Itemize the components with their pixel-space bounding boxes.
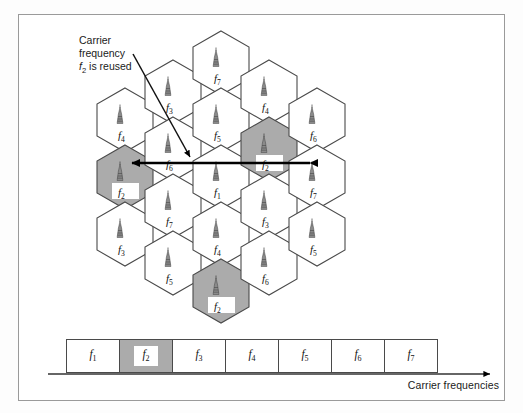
frequency-bar-label: f2	[134, 346, 157, 365]
frequency-bar-cell-f5[interactable]: f5	[279, 339, 332, 373]
frequency-bar-cell-f7[interactable]: f7	[385, 339, 438, 373]
axis-label-carrier-frequencies: Carrier frequencies	[408, 379, 499, 391]
frequency-bar-label: f7	[407, 348, 414, 363]
frequency-bar-label: f6	[354, 348, 361, 363]
carrier-frequency-bar: f1f2f3f4f5f6f7	[66, 339, 438, 373]
hex-label-backdrop	[112, 183, 139, 199]
frequency-bar-label: f5	[301, 348, 308, 363]
frequency-bar-label: f4	[248, 348, 255, 363]
hex-label-backdrop	[208, 297, 235, 313]
frequency-bar-cell-f2[interactable]: f2	[120, 339, 173, 373]
frequency-bar-cell-f1[interactable]: f1	[66, 339, 120, 373]
frequency-bar-cell-f4[interactable]: f4	[226, 339, 279, 373]
frequency-bar-label: f1	[89, 348, 96, 363]
annotation-line-2: frequency	[79, 47, 125, 59]
reuse-annotation-text: Carrier frequency f2 is reused	[79, 34, 199, 78]
frequency-bar-cell-f3[interactable]: f3	[173, 339, 226, 373]
frequency-bar-label: f3	[195, 348, 202, 363]
figure-root: f4f2f3f3f6f7f5f7f5f1f4f2f4f2f3f6f6f7f5 C…	[0, 0, 523, 413]
frequency-bar-cell-f6[interactable]: f6	[332, 339, 385, 373]
annotation-line-3-rest: is reused	[86, 60, 132, 72]
annotation-line-1: Carrier	[79, 34, 111, 46]
